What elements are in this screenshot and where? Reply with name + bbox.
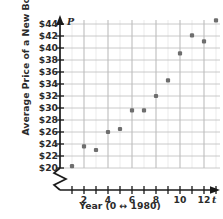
scatter-chart: $20$22$24$26$28$30$32$34$36$38$40$42$44 … (0, 0, 223, 219)
y-axis-variable-label: P (67, 16, 74, 27)
y-axis-title: Average Price of a New Book (20, 0, 31, 136)
x-axis-variable-label: t (212, 194, 216, 205)
x-axis-title: Year (0 ↔ 1980) (40, 200, 200, 211)
x-axis-tick-labels: 24681012 (0, 0, 223, 219)
